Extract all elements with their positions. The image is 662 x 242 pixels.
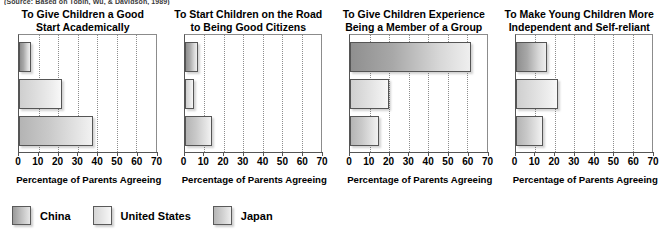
gridline [652, 35, 653, 152]
chart-panel-4: To Make Young Children MoreIndependent a… [497, 8, 662, 198]
legend-label: United States [121, 210, 191, 222]
axis-tick-label: 40 [92, 156, 103, 167]
axis-tick-label: 70 [482, 156, 493, 167]
chart-title: To Give Children ExperienceBeing a Membe… [331, 8, 497, 34]
bar-us [185, 79, 195, 109]
bar-row-china [350, 42, 487, 72]
axis-tick-label: 20 [52, 156, 63, 167]
bar-china [516, 42, 547, 72]
axis-tick-label: 20 [218, 156, 229, 167]
legend-swatch-us [93, 206, 112, 225]
axis-tick-label: 30 [237, 156, 248, 167]
chart-title-line: To Give Children a Good [22, 8, 144, 20]
axis-tick-label: 40 [257, 156, 268, 167]
plot-area [184, 34, 323, 152]
bar-china [185, 42, 199, 72]
chart-title: To Give Children a GoodStart Academicall… [0, 8, 166, 34]
bar-row-japan [516, 116, 653, 146]
axis-tick-label: 20 [383, 156, 394, 167]
x-axis: 010203040506070 [515, 152, 654, 170]
plot-area [515, 34, 654, 152]
gridline [156, 35, 157, 152]
axis-tick-label: 30 [403, 156, 414, 167]
bar-group [516, 35, 653, 152]
legend-item-china: China [12, 206, 71, 225]
bar-us [516, 79, 559, 109]
axis-tick-label: 10 [198, 156, 209, 167]
bar-japan [350, 116, 379, 146]
x-axis-title: Percentage of Parents Agreeing [331, 174, 497, 185]
axis-tick-label: 70 [316, 156, 327, 167]
axis-tick-label: 0 [181, 156, 187, 167]
chart-title-line: to Being Good Citizens [191, 21, 307, 33]
x-axis-title: Percentage of Parents Agreeing [0, 174, 166, 185]
bar-row-us [185, 79, 322, 109]
chart-title-line: Independent and Self-reliant [509, 21, 650, 33]
axis-tick-label: 40 [423, 156, 434, 167]
bar-us [19, 79, 62, 109]
legend-item-us: United States [93, 206, 191, 225]
bar-china [19, 42, 31, 72]
axis-tick-label: 50 [277, 156, 288, 167]
axis-tick-label: 30 [72, 156, 83, 167]
chart-title-line: To Make Young Children More [505, 8, 654, 20]
gridline [321, 35, 322, 152]
axis-tick-label: 0 [512, 156, 518, 167]
bar-japan [19, 116, 93, 146]
plot-area [18, 34, 157, 152]
x-axis: 010203040506070 [184, 152, 323, 170]
legend-item-japan: Japan [213, 206, 273, 225]
bar-row-japan [19, 116, 156, 146]
bar-row-us [516, 79, 653, 109]
x-axis: 010203040506070 [349, 152, 488, 170]
axis-tick-label: 50 [111, 156, 122, 167]
legend-label: China [40, 210, 71, 222]
bar-japan [516, 116, 543, 146]
source-credit: (Source: Based on Tobin, Wu, & Davidson,… [4, 0, 170, 5]
axis-tick-label: 10 [529, 156, 540, 167]
chart-panel-3: To Give Children ExperienceBeing a Membe… [331, 8, 497, 198]
bar-row-japan [185, 116, 322, 146]
bar-row-china [19, 42, 156, 72]
legend-swatch-china [12, 206, 31, 225]
axis-tick-label: 30 [568, 156, 579, 167]
axis-tick-label: 10 [363, 156, 374, 167]
x-axis: 010203040506070 [18, 152, 157, 170]
axis-tick-label: 60 [131, 156, 142, 167]
bar-group [350, 35, 487, 152]
axis-tick-label: 0 [346, 156, 352, 167]
chart-legend: ChinaUnited StatesJapan [12, 206, 295, 225]
bar-japan [185, 116, 212, 146]
axis-tick-label: 10 [32, 156, 43, 167]
axis-tick-label: 20 [549, 156, 560, 167]
axis-tick-label: 0 [15, 156, 21, 167]
chart-panel-1: To Give Children a GoodStart Academicall… [0, 8, 166, 198]
chart-title-line: To Give Children Experience [343, 8, 485, 20]
chart-title-line: To Start Children on the Road [174, 8, 322, 20]
chart-title: To Start Children on the Roadto Being Go… [166, 8, 332, 34]
chart-title-line: Start Academically [36, 21, 130, 33]
bar-group [19, 35, 156, 152]
chart-panel-group: To Give Children a GoodStart Academicall… [0, 8, 662, 198]
axis-tick-label: 60 [297, 156, 308, 167]
x-axis-title: Percentage of Parents Agreeing [497, 174, 662, 185]
axis-tick-label: 50 [442, 156, 453, 167]
bar-group [185, 35, 322, 152]
bar-row-us [19, 79, 156, 109]
x-axis-title: Percentage of Parents Agreeing [166, 174, 332, 185]
gridline [487, 35, 488, 152]
axis-tick-label: 70 [151, 156, 162, 167]
chart-panel-2: To Start Children on the Roadto Being Go… [166, 8, 332, 198]
axis-tick-label: 70 [647, 156, 658, 167]
axis-tick-label: 60 [628, 156, 639, 167]
bar-us [350, 79, 389, 109]
axis-tick-label: 50 [608, 156, 619, 167]
axis-tick-label: 40 [588, 156, 599, 167]
chart-title: To Make Young Children MoreIndependent a… [497, 8, 662, 34]
bar-row-china [516, 42, 653, 72]
bar-row-us [350, 79, 487, 109]
axis-tick-label: 60 [462, 156, 473, 167]
legend-label: Japan [241, 210, 273, 222]
plot-area [349, 34, 488, 152]
legend-swatch-japan [213, 206, 232, 225]
